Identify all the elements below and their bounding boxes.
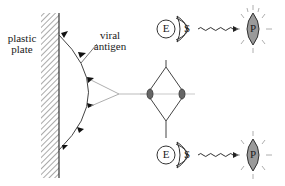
viral-antigen-label: viral antigen [88, 30, 132, 52]
enzyme-label-top: E [160, 23, 172, 34]
substrate-label-top: S [181, 23, 193, 34]
secondary-antibody-complex [140, 60, 195, 138]
plastic-plate [41, 13, 59, 178]
binding-site-icon [147, 89, 153, 99]
plastic-plate-label: plastic plate [4, 33, 40, 55]
substrate-label-bottom: S [181, 149, 193, 160]
enzyme-label-bottom: E [160, 149, 172, 160]
product-label-bottom: P [247, 149, 259, 160]
primary-antibody [91, 80, 150, 106]
plate-label-line2: plate [4, 44, 40, 55]
binding-site-icon [179, 89, 185, 99]
elisa-diagram [0, 0, 285, 186]
product-label-top: P [247, 23, 259, 34]
antigen-label-line2: antigen [88, 41, 132, 52]
